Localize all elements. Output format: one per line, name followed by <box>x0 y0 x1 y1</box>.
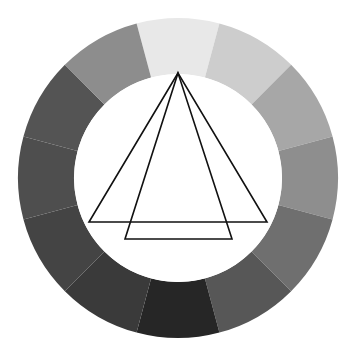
color-wheel-figure: Grayscale color wheel with overlaid tria… <box>0 0 352 343</box>
wheel-segment-left <box>18 137 78 220</box>
wheel-segment-right <box>278 137 338 220</box>
wheel-segment-bottom <box>137 278 220 338</box>
wheel-inner-disc <box>74 74 282 282</box>
color-wheel-svg <box>0 0 352 343</box>
wheel-segment-top <box>137 18 220 78</box>
